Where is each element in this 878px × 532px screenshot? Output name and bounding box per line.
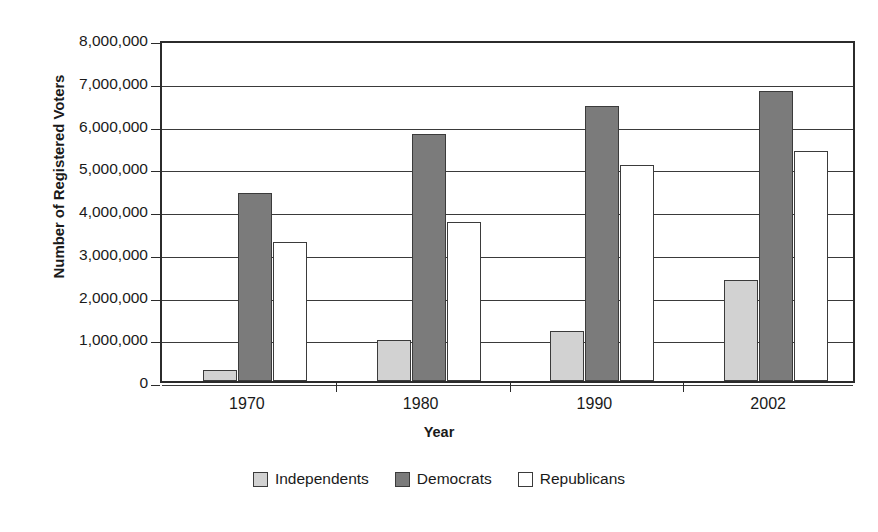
bar-republicans-1980 [447,222,481,381]
gridline [162,385,853,386]
y-axis-tick [151,385,160,386]
chart-legend: IndependentsDemocratsRepublicans [0,470,878,488]
legend-label: Independents [275,470,369,488]
legend-swatch-democrats [395,472,410,487]
y-axis-tick-label: 1,000,000 [36,332,148,348]
bar-independents-2002 [724,280,758,381]
x-axis-tick-label: 2002 [750,395,786,413]
legend-item-republicans[interactable]: Republicans [518,470,625,488]
bar-republicans-1990 [620,165,654,381]
legend-item-independents[interactable]: Independents [253,470,369,488]
y-axis-tick-label: 4,000,000 [36,204,148,220]
plot-area [160,41,855,383]
x-axis-tick-label: 1980 [403,395,439,413]
y-axis-tick [151,43,160,44]
y-axis-tick [151,171,160,172]
bar-republicans-2002 [794,151,828,381]
bar-independents-1980 [377,340,411,381]
legend-label: Democrats [417,470,492,488]
gridline [162,86,853,87]
gridline [162,171,853,172]
y-axis-tick [151,342,160,343]
x-axis-tick [510,381,511,392]
bar-democrats-2002 [759,91,793,381]
y-axis-tick-label: 2,000,000 [36,290,148,306]
y-axis-tick-label: 0 [36,375,148,391]
legend-item-democrats[interactable]: Democrats [395,470,492,488]
y-axis-tick-label: 5,000,000 [36,161,148,177]
y-axis-tick-labels: 8,000,0007,000,0006,000,0005,000,0004,00… [36,0,148,532]
legend-swatch-republicans [518,472,533,487]
x-axis-title: Year [0,424,878,440]
y-axis-tick-label: 3,000,000 [36,247,148,263]
bar-democrats-1990 [585,106,619,381]
x-axis-tick [683,381,684,392]
legend-label: Republicans [540,470,625,488]
y-axis-tick [151,86,160,87]
y-axis-tick-label: 6,000,000 [36,119,148,135]
legend-swatch-independents [253,472,268,487]
bar-democrats-1970 [238,193,272,381]
x-axis-tick-label: 1970 [229,395,265,413]
y-axis-tick [151,300,160,301]
y-axis-tick [151,257,160,258]
y-axis-tick-label: 8,000,000 [36,33,148,49]
bar-republicans-1970 [273,242,307,381]
x-axis-tick [336,381,337,392]
bar-independents-1990 [550,331,584,381]
y-axis-tick [151,129,160,130]
bar-chart: Number of Registered Voters 8,000,0007,0… [0,0,878,532]
bar-democrats-1980 [412,134,446,381]
gridline [162,129,853,130]
y-axis-tick [151,214,160,215]
y-axis-tick-label: 7,000,000 [36,76,148,92]
x-axis-tick-label: 1990 [577,395,613,413]
bar-independents-1970 [203,370,237,381]
